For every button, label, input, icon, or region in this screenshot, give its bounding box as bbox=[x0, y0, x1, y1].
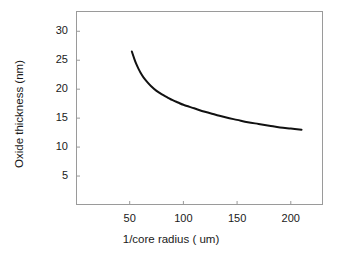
x-axis-title: 1/core radius ( um) bbox=[0, 233, 342, 245]
chart-figure: 51015202530 50100150200 Oxide thickness … bbox=[0, 0, 342, 261]
y-tick-label: 25 bbox=[42, 54, 68, 65]
x-tick-label: 200 bbox=[274, 213, 308, 224]
data-curve bbox=[132, 52, 302, 130]
x-tick-label: 150 bbox=[220, 213, 254, 224]
y-tick-label: 5 bbox=[42, 170, 68, 181]
y-tick-label: 10 bbox=[42, 141, 68, 152]
x-tick-label: 100 bbox=[166, 213, 200, 224]
x-tick-label: 50 bbox=[113, 213, 147, 224]
y-tick-label: 20 bbox=[42, 83, 68, 94]
y-tick-label: 15 bbox=[42, 112, 68, 123]
axis-tick-marks bbox=[76, 31, 291, 205]
y-axis-title: Oxide thickness (nm) bbox=[13, 34, 25, 194]
y-tick-label: 30 bbox=[42, 25, 68, 36]
